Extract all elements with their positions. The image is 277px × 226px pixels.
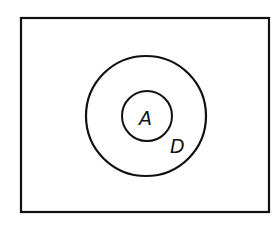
set-d-label: D: [170, 135, 185, 157]
set-a-label: A: [137, 107, 152, 129]
venn-diagram: A D: [0, 0, 277, 226]
